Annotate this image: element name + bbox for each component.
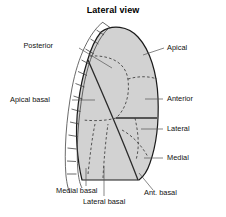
lung-silhouette xyxy=(76,27,158,180)
label-ant-basal: Ant. basal xyxy=(144,188,177,197)
lung-outline xyxy=(76,27,158,180)
rib-rung xyxy=(67,161,76,162)
label-lateral: Lateral xyxy=(167,124,190,133)
label-apical-basal: Apical basal xyxy=(10,95,50,104)
label-medial-basal: Medial basal xyxy=(56,186,98,195)
label-apical: Apical xyxy=(167,43,187,52)
rib-rung xyxy=(103,23,110,28)
lung-diagram: Posterior Apical Apical basal Anterior L… xyxy=(0,0,226,217)
lateral-view-figure: Lateral view xyxy=(0,0,226,217)
rib-rung xyxy=(68,148,77,149)
label-medial: Medial xyxy=(167,153,189,162)
label-lateral-basal: Lateral basal xyxy=(83,197,126,206)
label-anterior: Anterior xyxy=(167,94,193,103)
label-posterior: Posterior xyxy=(23,41,53,50)
